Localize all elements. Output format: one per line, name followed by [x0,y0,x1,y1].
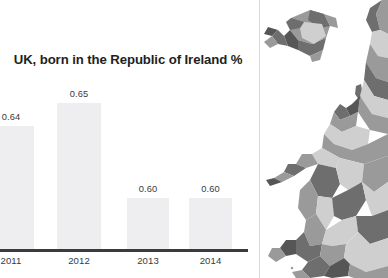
plot-area: 0.64 0.65 0.60 0.60 2011 2012 2013 2014 [0,0,259,278]
x-tick-2012: 2012 [57,255,101,266]
x-tick-2014: 2014 [189,255,232,266]
bar-value-2012: 0.65 [57,89,101,99]
screenshot-root: UK, born in the Republic of Ireland % 0.… [0,0,388,278]
map-graphic-icon [260,0,388,278]
x-axis-line [0,249,248,252]
bar-value-2011: 0.64 [0,112,34,122]
map-panel [260,0,388,278]
bar-2013 [127,198,169,250]
x-tick-2013: 2013 [127,255,169,266]
bar-2012 [57,103,101,250]
bar-chart-panel: UK, born in the Republic of Ireland % 0.… [0,0,259,278]
bar-value-2013: 0.60 [127,184,169,194]
bar-2011 [0,126,34,250]
bar-2014 [189,198,232,250]
map-region-north [264,10,338,62]
map-speck [291,267,293,269]
x-tick-2011: 2011 [0,255,34,266]
bar-value-2014: 0.60 [189,184,232,194]
